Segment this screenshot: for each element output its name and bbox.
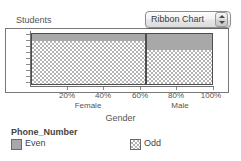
x-axis-tick bbox=[140, 87, 141, 90]
group-label-female: Female bbox=[75, 101, 102, 110]
x-axis-tick bbox=[213, 87, 214, 90]
x-tick-label: 60% bbox=[132, 91, 148, 100]
x-axis-group-labels: Female Male bbox=[0, 101, 241, 112]
y-axis-tick bbox=[26, 76, 30, 77]
legend-swatch-even-icon bbox=[11, 139, 22, 150]
x-tick-label: 80% bbox=[168, 91, 184, 100]
legend-label-even: Even bbox=[25, 138, 46, 148]
y-axis-tick bbox=[26, 82, 30, 83]
y-axis-tick bbox=[26, 40, 30, 41]
legend: Phone_Number Even Odd bbox=[11, 127, 236, 157]
x-tick-label: 100% bbox=[201, 91, 221, 100]
y-axis-tick bbox=[26, 58, 30, 59]
bar-segment-female[interactable] bbox=[31, 33, 146, 85]
bar-band-male-even[interactable] bbox=[147, 34, 212, 51]
legend-label-odd: Odd bbox=[144, 138, 161, 148]
chart-type-select-value: Ribbon Chart bbox=[151, 13, 211, 26]
y-axis-tick bbox=[26, 70, 30, 71]
y-axis-label: Students bbox=[14, 15, 54, 25]
y-axis-tick bbox=[26, 52, 30, 53]
stepper-down-arrow-icon[interactable] bbox=[219, 21, 225, 24]
x-axis-tick bbox=[176, 87, 177, 90]
group-label-male: Male bbox=[171, 101, 188, 110]
chart-type-select[interactable]: Ribbon Chart bbox=[145, 11, 231, 28]
bar-band-male-odd[interactable] bbox=[147, 50, 212, 84]
legend-title: Phone_Number bbox=[11, 127, 78, 137]
x-axis-title: Gender bbox=[0, 113, 241, 123]
x-axis-tick bbox=[103, 87, 104, 90]
y-axis-tick bbox=[26, 34, 30, 35]
legend-swatch-odd-icon bbox=[130, 139, 141, 150]
x-axis-tick bbox=[67, 87, 68, 90]
x-tick-label: 20% bbox=[59, 91, 75, 100]
x-axis-line bbox=[30, 86, 214, 87]
chart-type-stepper[interactable] bbox=[215, 12, 228, 27]
bar-segment-male[interactable] bbox=[146, 33, 213, 85]
x-tick-label: 40% bbox=[95, 91, 111, 100]
y-axis-tick bbox=[26, 46, 30, 47]
stepper-up-arrow-icon[interactable] bbox=[219, 15, 225, 18]
bar-band-female-odd[interactable] bbox=[32, 41, 145, 84]
chart-widget: Ribbon Chart Students 20% 4 bbox=[0, 0, 241, 161]
plot-area bbox=[31, 33, 213, 85]
y-axis-tick bbox=[26, 64, 30, 65]
